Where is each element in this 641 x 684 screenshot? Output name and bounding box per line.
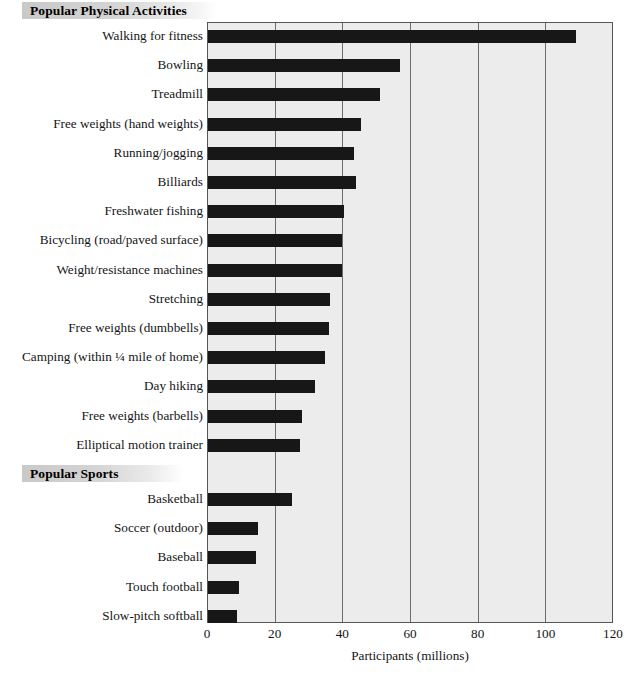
- x-tick-label-120: 120: [603, 626, 623, 641]
- chart-row: Day hiking: [0, 376, 641, 396]
- category-label: Free weights (hand weights): [53, 114, 203, 134]
- chart-row: Stretching: [0, 289, 641, 309]
- bar: [208, 264, 342, 277]
- bar: [208, 581, 239, 594]
- x-tick-label-0: 0: [204, 626, 211, 641]
- bar: [208, 439, 300, 452]
- bar: [208, 380, 315, 393]
- bar: [208, 410, 302, 423]
- category-label: Basketball: [147, 489, 203, 509]
- category-label: Elliptical motion trainer: [76, 435, 203, 455]
- x-tick-label-20: 20: [268, 626, 281, 641]
- bar: [208, 147, 354, 160]
- category-label: Free weights (dumbbells): [68, 318, 203, 338]
- section-title: Popular Sports: [30, 465, 119, 482]
- x-tick-label-40: 40: [336, 626, 349, 641]
- chart-row: Baseball: [0, 547, 641, 567]
- bar: [208, 351, 325, 364]
- x-tick-label-80: 80: [471, 626, 484, 641]
- bar: [208, 205, 344, 218]
- chart-row: Free weights (hand weights): [0, 114, 641, 134]
- category-label: Bowling: [158, 55, 203, 75]
- category-label: Bicycling (road/paved surface): [40, 230, 203, 250]
- chart-row: Running/jogging: [0, 143, 641, 163]
- bar: [208, 610, 237, 623]
- section-header-band: Popular Sports: [22, 465, 183, 482]
- category-label: Billiards: [158, 172, 203, 192]
- chart-row: Billiards: [0, 172, 641, 192]
- chart-row: Basketball: [0, 489, 641, 509]
- x-axis-title: Participants (millions): [207, 648, 613, 664]
- category-label: Running/jogging: [114, 143, 203, 163]
- category-label: Camping (within ¼ mile of home): [22, 347, 203, 367]
- category-label: Free weights (barbells): [81, 406, 203, 426]
- bar: [208, 493, 292, 506]
- chart-row: Free weights (barbells): [0, 406, 641, 426]
- category-label: Touch football: [126, 577, 203, 597]
- bar: [208, 293, 330, 306]
- chart-row: Soccer (outdoor): [0, 518, 641, 538]
- chart-row: Freshwater fishing: [0, 201, 641, 221]
- category-label: Treadmill: [151, 84, 203, 104]
- chart-row: Slow-pitch softball: [0, 606, 641, 626]
- bar: [208, 88, 380, 101]
- bar: [208, 522, 258, 535]
- bar: [208, 176, 356, 189]
- bar: [208, 118, 361, 131]
- section-title: Popular Physical Activities: [30, 2, 187, 19]
- bar: [208, 322, 329, 335]
- section-header-band: Popular Physical Activities: [22, 2, 218, 19]
- category-label: Baseball: [158, 547, 203, 567]
- bar: [208, 59, 400, 72]
- category-label: Weight/resistance machines: [56, 260, 203, 280]
- category-label: Walking for fitness: [102, 26, 203, 46]
- category-label: Soccer (outdoor): [114, 518, 203, 538]
- chart-row: Bicycling (road/paved surface): [0, 230, 641, 250]
- chart-row: Weight/resistance machines: [0, 260, 641, 280]
- category-label: Freshwater fishing: [104, 201, 203, 221]
- chart-row: Walking for fitness: [0, 26, 641, 46]
- chart-row: Elliptical motion trainer: [0, 435, 641, 455]
- bar: [208, 234, 342, 247]
- chart-row: Touch football: [0, 577, 641, 597]
- chart-row: Bowling: [0, 55, 641, 75]
- chart-row: Free weights (dumbbells): [0, 318, 641, 338]
- x-tick-label-60: 60: [403, 626, 416, 641]
- category-label: Stretching: [149, 289, 203, 309]
- bar-chart-figure: 020406080100120Popular Physical Activiti…: [0, 0, 641, 684]
- bar: [208, 30, 576, 43]
- category-label: Day hiking: [144, 376, 203, 396]
- chart-row: Treadmill: [0, 84, 641, 104]
- chart-row: Camping (within ¼ mile of home): [0, 347, 641, 367]
- category-label: Slow-pitch softball: [102, 606, 203, 626]
- bar: [208, 551, 256, 564]
- x-tick-label-100: 100: [535, 626, 555, 641]
